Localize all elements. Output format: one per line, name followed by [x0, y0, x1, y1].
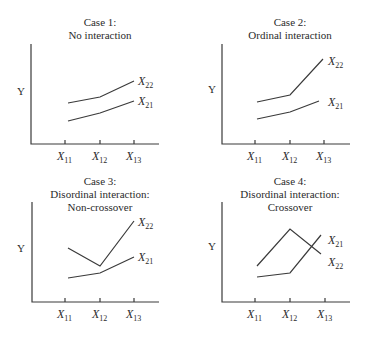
y-axis-label: Y: [208, 83, 216, 95]
series-line-x22: [257, 59, 323, 102]
series-line-x21: [68, 257, 134, 278]
y-axis-label: Y: [17, 242, 25, 254]
series-line-x21: [68, 101, 134, 121]
panel-title-line: Disordinal interaction:: [50, 188, 149, 200]
panel-case-3: Case 3: Disordinal interaction: Non-cros…: [17, 175, 159, 323]
panel-title-line: Case 1:: [84, 16, 117, 28]
x-tick-label: X13: [315, 149, 331, 165]
x-tick-label: X11: [56, 149, 72, 165]
interaction-diagram: Case 1: No interaction Y X22 X21 X11 X12…: [0, 0, 368, 340]
panel-title-line: Crossover: [268, 201, 313, 213]
panel-case-1: Case 1: No interaction Y X22 X21 X11 X12…: [17, 16, 159, 165]
x-tick-label: X12: [281, 307, 297, 323]
panel-title-line: Non-crossover: [68, 201, 133, 213]
panel-title-line: Disordinal interaction:: [240, 188, 339, 200]
panel-title-line: Ordinal interaction: [248, 29, 332, 41]
series-label-x22: X22: [327, 54, 343, 70]
series-line-x22: [68, 81, 134, 103]
series-label-x22: X22: [137, 74, 153, 90]
series-label-x21: X21: [327, 95, 343, 111]
x-tick-label: X12: [281, 149, 297, 165]
x-tick-label: X11: [56, 307, 72, 323]
series-label-x21: X21: [327, 233, 343, 249]
panel-title-line: Case 4:: [274, 175, 307, 187]
axes: [222, 202, 350, 302]
x-tick-label: X11: [246, 307, 262, 323]
panel-case-4: Case 4: Disordinal interaction: Crossove…: [208, 175, 350, 323]
x-tick-label: X13: [316, 307, 332, 323]
series-label-x21: X21: [137, 250, 153, 266]
panel-title-line: Case 2:: [274, 16, 307, 28]
series-line-x21: [257, 101, 319, 119]
x-tick-label: X13: [125, 149, 141, 165]
series-label-x21: X21: [137, 94, 153, 110]
x-tick-label: X11: [246, 149, 262, 165]
series-line-x22: [68, 221, 134, 266]
x-tick-label: X13: [125, 307, 141, 323]
series-label-x22: X22: [327, 255, 343, 271]
x-tick-label: X12: [91, 149, 107, 165]
panel-title-line: No interaction: [68, 29, 132, 41]
x-tick-label: X12: [91, 307, 107, 323]
series-label-x22: X22: [137, 215, 153, 231]
y-axis-label: Y: [208, 240, 216, 252]
panel-title-line: Case 3:: [84, 175, 117, 187]
panel-case-2: Case 2: Ordinal interaction Y X22 X21 X1…: [208, 16, 350, 165]
y-axis-label: Y: [17, 85, 25, 97]
